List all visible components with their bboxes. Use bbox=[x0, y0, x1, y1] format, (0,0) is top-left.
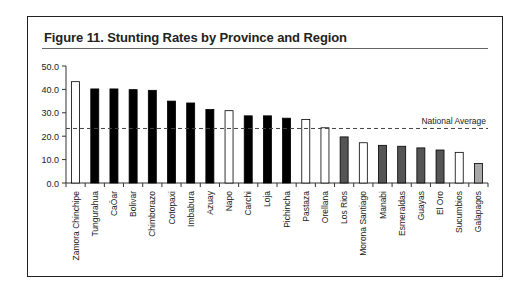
x-tick-label: Azuay bbox=[205, 190, 215, 214]
x-tick-label: Morona Santiago bbox=[358, 191, 368, 256]
y-tick-label: 50.0 bbox=[41, 62, 59, 72]
x-tick-label: El Oro bbox=[435, 191, 445, 215]
national-average-label: National Average bbox=[421, 116, 486, 126]
bar bbox=[417, 148, 425, 183]
x-tick-label: Napo bbox=[224, 191, 234, 212]
bar bbox=[436, 150, 444, 183]
bar bbox=[263, 116, 271, 183]
bar bbox=[148, 90, 156, 183]
x-tick-label: Orellana bbox=[320, 191, 330, 223]
bar bbox=[474, 164, 482, 183]
bar bbox=[379, 145, 387, 183]
x-tick-label: Manabi bbox=[378, 191, 388, 219]
bar bbox=[225, 111, 233, 183]
x-tick-label: Cotopaxi bbox=[167, 191, 177, 225]
bar bbox=[302, 120, 310, 183]
y-tick-label: 40.0 bbox=[41, 85, 59, 95]
bar bbox=[72, 82, 80, 183]
x-tick-label: Pichincha bbox=[282, 191, 292, 228]
y-tick-label: 20.0 bbox=[41, 132, 59, 142]
x-tick-label: Chimborazo bbox=[147, 191, 157, 237]
bar bbox=[283, 118, 291, 183]
bar bbox=[340, 137, 348, 183]
bar-chart: 0.010.020.030.040.050.0Zamora ChinchipeT… bbox=[0, 0, 531, 300]
x-tick-label: Loja bbox=[262, 191, 272, 207]
bar bbox=[244, 116, 252, 183]
x-tick-label: Imbabura bbox=[186, 191, 196, 227]
x-tick-label: Los Rios bbox=[339, 191, 349, 224]
x-tick-label: CaÖar bbox=[109, 191, 119, 216]
x-tick-label: Pastaza bbox=[301, 191, 311, 222]
bar bbox=[168, 101, 176, 183]
x-tick-label: Sucumbios bbox=[454, 191, 464, 233]
x-tick-label: Esmeraldas bbox=[397, 191, 407, 236]
x-tick-label: Tungurahua bbox=[90, 191, 100, 237]
y-tick-label: 30.0 bbox=[41, 108, 59, 118]
x-tick-label: Galapagos bbox=[473, 191, 483, 232]
bar bbox=[110, 89, 118, 183]
bar bbox=[359, 143, 367, 183]
y-tick-label: 10.0 bbox=[41, 155, 59, 165]
bar bbox=[398, 146, 406, 183]
bar bbox=[455, 152, 463, 183]
y-tick-label: 0.0 bbox=[46, 179, 59, 189]
x-tick-label: Guayas bbox=[416, 191, 426, 220]
bar bbox=[129, 90, 137, 183]
bar bbox=[321, 128, 329, 183]
x-tick-label: Carchi bbox=[243, 191, 253, 216]
bar bbox=[206, 110, 214, 183]
bar bbox=[91, 89, 99, 183]
x-tick-label: Zamora Chinchipe bbox=[71, 191, 81, 261]
x-tick-label: Bolivar bbox=[128, 191, 138, 217]
bar bbox=[187, 103, 195, 183]
